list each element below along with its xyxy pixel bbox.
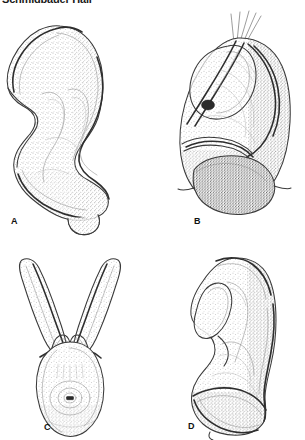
panel-d-basal-spur xyxy=(209,432,213,440)
figure-plate: A xyxy=(0,0,305,440)
figure-panel-d xyxy=(172,252,297,440)
panel-label-a: A xyxy=(11,216,18,226)
panel-c-body-shading xyxy=(8,340,133,440)
panel-d-body-shading xyxy=(172,252,297,440)
panel-b-spur-right xyxy=(274,186,291,189)
figure-panel-b xyxy=(168,10,300,237)
figure-panel-c xyxy=(8,250,133,440)
panel-b-dark-node xyxy=(202,100,215,110)
panel-label-c: C xyxy=(44,422,51,432)
panel-b-spur-left xyxy=(178,188,194,190)
panel-label-b: B xyxy=(194,216,201,226)
panel-label-d: D xyxy=(188,421,195,431)
figure-panel-a xyxy=(2,22,132,237)
panel-c-aperture-slit xyxy=(67,397,74,400)
